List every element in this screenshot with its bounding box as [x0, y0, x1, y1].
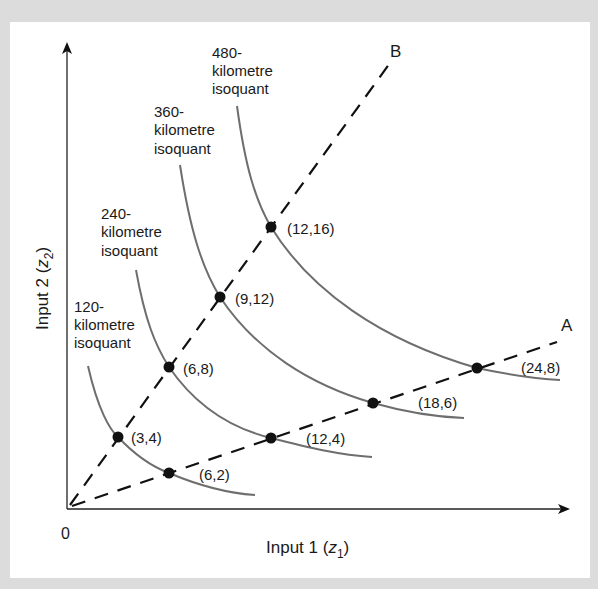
svg-text:kilometre: kilometre — [212, 62, 273, 79]
svg-text:kilometre: kilometre — [74, 316, 135, 333]
svg-text:kilometre: kilometre — [154, 121, 215, 138]
svg-text:isoquant: isoquant — [101, 242, 159, 259]
isoquant-diagram: (3,4) (6,2) (6,8) (12,4) (9,12) (18,6) (… — [0, 0, 598, 589]
svg-text:240-: 240- — [101, 205, 131, 222]
x-axis-label: Input 1 (z1) — [266, 538, 349, 561]
ray-a-label: A — [561, 316, 573, 335]
svg-text:120-: 120- — [74, 298, 104, 315]
point-24-8 — [472, 363, 483, 374]
isoquant-360-label: 360- kilometre isoquant — [154, 103, 215, 157]
point-6-2 — [164, 468, 175, 479]
point-9-12 — [215, 292, 226, 303]
label-9-12: (9,12) — [235, 290, 274, 307]
isoquant-480-curve — [237, 106, 560, 380]
label-12-16: (12,16) — [287, 220, 335, 237]
origin-label: 0 — [61, 525, 70, 542]
point-6-8 — [164, 362, 175, 373]
isoquant-240-label: 240- kilometre isoquant — [101, 205, 162, 259]
svg-text:360-: 360- — [154, 103, 184, 120]
isoquant-120-label: 120- kilometre isoquant — [74, 298, 135, 351]
point-3-4 — [113, 432, 124, 443]
label-3-4: (3,4) — [131, 429, 162, 446]
label-24-8: (24,8) — [521, 359, 560, 376]
label-18-6: (18,6) — [418, 394, 457, 411]
label-12-4: (12,4) — [306, 430, 345, 447]
label-6-2: (6,2) — [199, 466, 230, 483]
ray-b-label: B — [390, 42, 401, 61]
svg-text:480-: 480- — [212, 44, 242, 61]
svg-text:kilometre: kilometre — [101, 223, 162, 240]
point-12-16 — [266, 222, 277, 233]
svg-text:isoquant: isoquant — [74, 334, 132, 351]
ray-a — [72, 342, 557, 506]
point-18-6 — [368, 398, 379, 409]
point-12-4 — [266, 433, 277, 444]
isoquant-360-curve — [180, 165, 464, 418]
isoquant-480-label: 480- kilometre isoquant — [212, 44, 273, 97]
y-axis-label: Input 2 (z2) — [33, 247, 56, 330]
label-6-8: (6,8) — [183, 360, 214, 377]
svg-text:isoquant: isoquant — [212, 80, 270, 97]
svg-text:isoquant: isoquant — [154, 140, 212, 157]
